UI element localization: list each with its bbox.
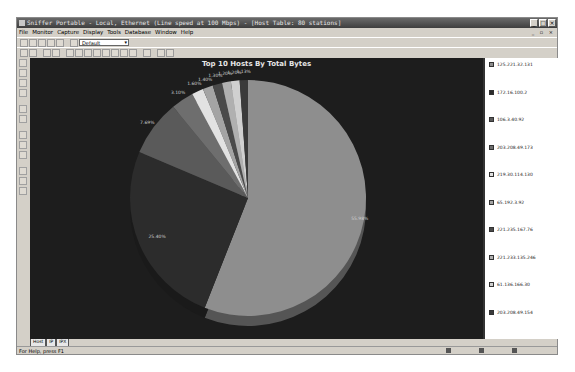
address-book-button[interactable]	[129, 49, 137, 57]
legend-label: 65.192.3.92	[497, 200, 524, 205]
protocol-distribution-button[interactable]	[102, 49, 110, 57]
legend-swatch	[489, 117, 494, 122]
slice-percent-label: 1.13%	[237, 69, 251, 74]
profile-select[interactable]: Default	[79, 39, 129, 46]
detail-view-button[interactable]	[19, 69, 27, 77]
maximize-button[interactable]: □	[539, 19, 547, 27]
host-table-button[interactable]	[66, 49, 74, 57]
menu-database[interactable]: Database	[125, 28, 151, 37]
minimize-button[interactable]: _	[530, 19, 538, 27]
zoom-button[interactable]	[19, 167, 27, 175]
menu-help[interactable]: Help	[181, 28, 194, 37]
legend-item: 125.221.32.131	[489, 62, 533, 67]
pie-chart-svg	[30, 58, 483, 339]
stop-display-button[interactable]	[47, 39, 55, 47]
menu-bar: File Monitor Capture Display Tools Datab…	[17, 28, 557, 37]
legend-swatch	[489, 90, 494, 95]
up-down-button[interactable]	[19, 141, 27, 149]
bar-chart-button[interactable]	[19, 79, 27, 87]
legend-swatch	[489, 310, 494, 315]
legend-label: 203.208.49.173	[497, 145, 533, 150]
toolbar-1: Default	[17, 37, 557, 47]
menu-window[interactable]: Window	[155, 28, 177, 37]
window-controls: _ □ ×	[530, 19, 556, 27]
pie-chart: Top 10 Hosts By Total Bytes 55.98%25.40%…	[30, 58, 483, 339]
toolbar-2	[17, 47, 557, 57]
menu-file[interactable]: File	[19, 28, 28, 37]
outline-view-button[interactable]	[19, 59, 27, 67]
legend-swatch	[489, 62, 494, 67]
history-samples-button[interactable]	[93, 49, 101, 57]
sort-button[interactable]	[19, 131, 27, 139]
legend-item: 221.235.167.76	[489, 227, 533, 232]
global-statistics-button[interactable]	[111, 49, 119, 57]
app-icon	[19, 20, 25, 26]
slice-percent-label: 55.98%	[351, 216, 368, 221]
expert-status-icon	[512, 348, 517, 353]
pause-capture-button[interactable]	[29, 39, 37, 47]
legend-item: 61.136.166.30	[489, 282, 530, 287]
status-help-text: For Help, press F1	[19, 348, 64, 354]
alarm-log-button[interactable]	[120, 49, 128, 57]
close-button[interactable]: ×	[548, 19, 556, 27]
legend-swatch	[489, 227, 494, 232]
legend-label: 61.136.166.30	[497, 282, 530, 287]
legend-item: 172.16.100.2	[489, 90, 527, 95]
view-toolbar	[17, 58, 29, 338]
start-capture-button[interactable]	[20, 39, 28, 47]
legend-label: 172.16.100.2	[497, 90, 527, 95]
capture-panel-button[interactable]	[29, 49, 37, 57]
legend-item: 221.233.135.246	[489, 255, 536, 260]
status-icons	[446, 348, 517, 353]
legend-swatch	[489, 200, 494, 205]
ip-button[interactable]	[19, 115, 27, 123]
slice-percent-label: 1.60%	[187, 81, 201, 86]
application-response-button[interactable]	[84, 49, 92, 57]
legend-label: 221.233.135.246	[497, 255, 536, 260]
menu-display[interactable]: Display	[83, 28, 103, 37]
menu-monitor[interactable]: Monitor	[32, 28, 53, 37]
filter-icon[interactable]	[70, 39, 78, 47]
legend-item: 203.208.49.154	[489, 310, 533, 315]
slice-percent-label: 7.69%	[140, 120, 154, 125]
legend-item: 65.192.3.92	[489, 200, 524, 205]
legend-item: 106.3.40.92	[489, 117, 524, 122]
display-button[interactable]	[56, 39, 64, 47]
title-bar: Sniffer Portable - Local, Ethernet (Line…	[17, 18, 557, 28]
help-button[interactable]	[166, 49, 174, 57]
adapter-status-icon	[479, 348, 484, 353]
legend-swatch	[489, 172, 494, 177]
window-title: Sniffer Portable - Local, Ethernet (Line…	[27, 18, 341, 28]
matrix-button[interactable]	[75, 49, 83, 57]
legend-swatch	[489, 255, 494, 260]
stop-capture-button[interactable]	[38, 39, 46, 47]
slice-percent-label: 3.10%	[171, 90, 185, 95]
legend-item: 219.30.114.130	[489, 172, 533, 177]
legend-label: 219.30.114.130	[497, 172, 533, 177]
packet-generator-button[interactable]	[52, 49, 60, 57]
expert-button[interactable]	[143, 49, 151, 57]
properties-button[interactable]	[19, 177, 27, 185]
export-button[interactable]	[19, 187, 27, 195]
mac-button[interactable]	[19, 105, 27, 113]
chart-legend: 125.221.32.131172.16.100.2106.3.40.92203…	[483, 58, 558, 339]
pie-chart-button[interactable]	[19, 89, 27, 97]
legend-item: 203.208.49.173	[489, 145, 533, 150]
network-status-icon	[446, 348, 451, 353]
menu-tools[interactable]: Tools	[107, 28, 121, 37]
menu-capture[interactable]: Capture	[57, 28, 79, 37]
legend-label: 106.3.40.92	[497, 117, 524, 122]
options-button[interactable]	[157, 49, 165, 57]
legend-swatch	[489, 282, 494, 287]
legend-label: 221.235.167.76	[497, 227, 533, 232]
mdi-controls[interactable]: _ ▫ ×	[532, 28, 555, 37]
sniffer-window: Sniffer Portable - Local, Ethernet (Line…	[16, 17, 558, 355]
status-bar: For Help, press F1	[17, 346, 557, 354]
clear-button[interactable]	[19, 151, 27, 159]
print-button[interactable]	[43, 49, 51, 57]
legend-label: 125.221.32.131	[497, 62, 533, 67]
legend-label: 203.208.49.154	[497, 310, 533, 315]
legend-swatch	[489, 145, 494, 150]
slice-percent-label: 25.40%	[149, 234, 166, 239]
dashboard-button[interactable]	[20, 49, 28, 57]
